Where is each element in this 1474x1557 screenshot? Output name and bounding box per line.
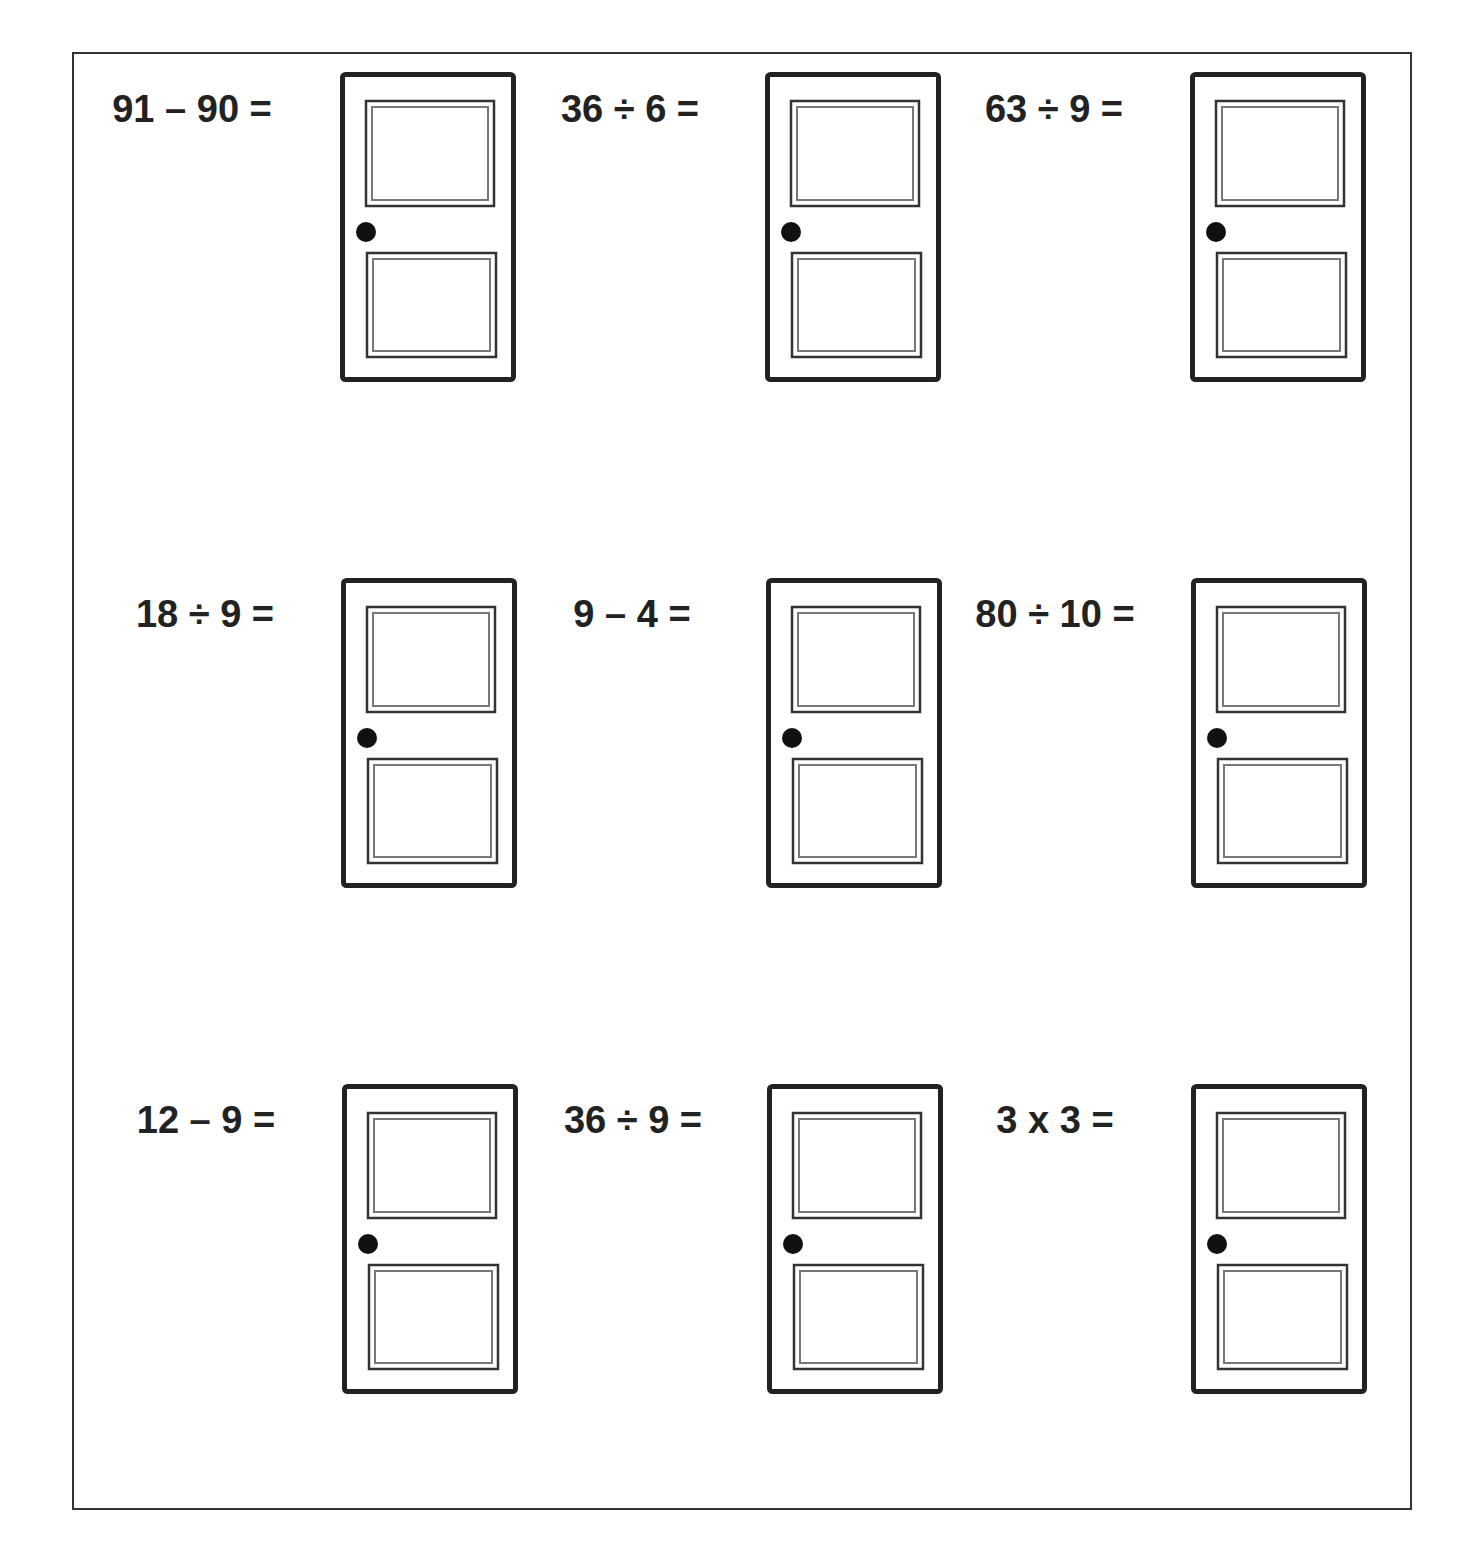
problem-expression: 80 ÷ 10 = bbox=[975, 595, 1134, 633]
door-icon bbox=[765, 72, 941, 382]
door-icon bbox=[766, 578, 942, 888]
problem-expression: 63 ÷ 9 = bbox=[985, 90, 1123, 128]
door-icon bbox=[342, 1084, 518, 1394]
door-icon bbox=[1191, 578, 1367, 888]
problem-expression: 18 ÷ 9 = bbox=[136, 595, 274, 633]
door-icon bbox=[340, 72, 516, 382]
problem-expression: 9 – 4 = bbox=[573, 595, 690, 633]
problem-expression: 36 ÷ 6 = bbox=[561, 90, 699, 128]
problem-expression: 91 – 90 = bbox=[112, 90, 272, 128]
door-icon bbox=[767, 1084, 943, 1394]
door-icon bbox=[1191, 1084, 1367, 1394]
problem-expression: 12 – 9 = bbox=[137, 1101, 275, 1139]
door-icon bbox=[341, 578, 517, 888]
door-icon bbox=[1190, 72, 1366, 382]
problem-expression: 36 ÷ 9 = bbox=[564, 1101, 702, 1139]
problem-expression: 3 x 3 = bbox=[996, 1101, 1113, 1139]
